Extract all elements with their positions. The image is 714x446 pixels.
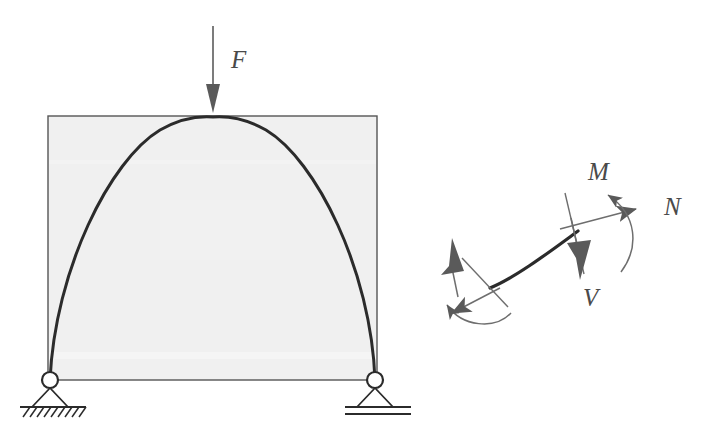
shear-force-V-left (441, 238, 464, 297)
right-cut-face: N V M (560, 158, 682, 311)
ground-hatching-left (23, 407, 86, 417)
M-curved-arrow-left (447, 305, 511, 324)
M-curved-arrow-right (608, 195, 633, 272)
arch-structure-diagram: F (20, 26, 411, 417)
load-arrow-head (206, 84, 220, 113)
shear-force-label-V: V (583, 284, 601, 311)
hinge-circle-left (42, 372, 58, 388)
internal-forces-free-body-diagram: N V M (441, 158, 682, 324)
normal-force-N-left (452, 288, 500, 313)
support-triangle-left (32, 388, 68, 407)
N-arrow-shaft-left (452, 288, 500, 313)
figure-root: F (0, 0, 714, 446)
bending-moment-M-left (447, 305, 511, 324)
load-label-F: F (230, 46, 247, 73)
normal-force-N-right: N (560, 193, 682, 229)
bending-moment-label-M: M (587, 158, 610, 185)
applied-load-F: F (206, 26, 247, 113)
left-cut-face (441, 238, 511, 324)
support-triangle-right (357, 388, 393, 407)
V-arrow-head-right (567, 240, 591, 280)
shear-force-V-right: V (567, 218, 601, 311)
cut-arch-segment (490, 231, 578, 288)
bending-moment-M-right: M (587, 158, 633, 272)
V-arrow-head-left (441, 238, 464, 275)
structural-diagram-canvas: F (0, 0, 714, 446)
hinge-circle-right (367, 372, 383, 388)
normal-force-label-N: N (663, 193, 682, 220)
